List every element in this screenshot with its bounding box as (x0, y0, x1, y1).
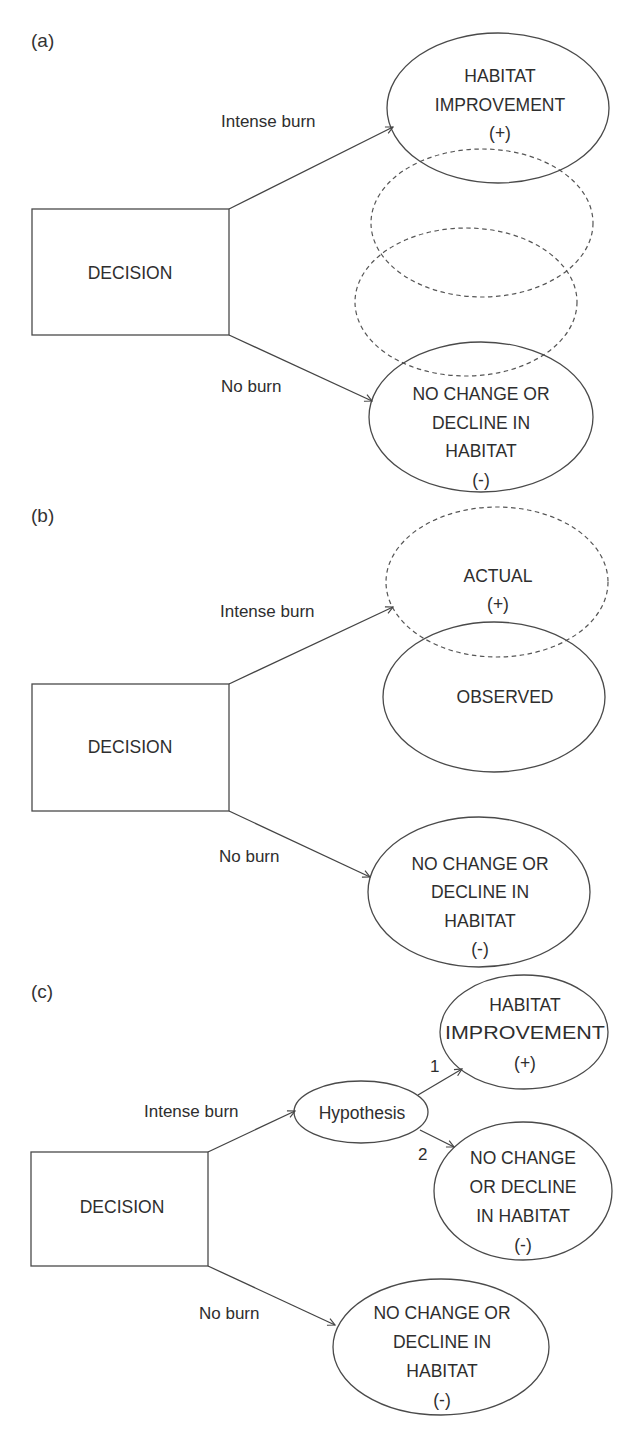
panel-b: (b) DECISION ACTUAL (+) OBSERVED NO CHAN… (31, 505, 608, 967)
outcome-text: IMPROVEMENT (435, 95, 566, 115)
hypothesis-branch-1-label: 1 (430, 1057, 439, 1076)
panel-label-a: (a) (31, 30, 54, 51)
panel-label-b: (b) (31, 505, 54, 526)
outcome-text: HABITAT (489, 995, 561, 1015)
hypothesis-label: Hypothesis (319, 1103, 406, 1123)
intense-burn-label-a: Intense burn (221, 112, 316, 131)
decision-label-b: DECISION (88, 737, 173, 757)
panel-c: (c) DECISION Hypothesis HABITAT IMPROVEM… (31, 975, 612, 1415)
uncertain-outcome-ellipse-1 (371, 149, 593, 297)
outcome-text: HABITAT (406, 1361, 478, 1381)
decision-label-a: DECISION (88, 263, 173, 283)
actual-label: ACTUAL (463, 566, 532, 586)
uncertain-outcome-ellipse-2 (355, 228, 577, 376)
observed-label: OBSERVED (457, 687, 554, 707)
no-burn-label-c: No burn (199, 1304, 259, 1323)
outcome-text: (-) (471, 939, 488, 959)
outcome-text: (-) (472, 470, 489, 490)
outcome-text: NO CHANGE OR (411, 854, 548, 874)
outcome-text: (+) (514, 1053, 536, 1073)
no-burn-arrow-b (229, 811, 370, 877)
outcome-text: NO CHANGE OR (373, 1303, 510, 1323)
intense-burn-label-b: Intense burn (220, 602, 315, 621)
outcome-text: DECLINE IN (431, 882, 529, 902)
outcome-text: NO CHANGE OR (412, 384, 549, 404)
outcome-text: OR DECLINE (470, 1177, 577, 1197)
intense-burn-arrow-a (229, 127, 393, 209)
outcome-text: NO CHANGE (470, 1148, 576, 1168)
no-burn-label-b: No burn (219, 847, 279, 866)
intense-burn-label-c: Intense burn (144, 1102, 239, 1121)
outcome-text: (-) (433, 1390, 450, 1410)
hypothesis-arrow-1 (418, 1069, 462, 1095)
outcome-text: HABITAT (464, 66, 536, 86)
outcome-text: IMPROVEMENT (445, 1023, 605, 1043)
outcome-text: DECLINE IN (393, 1332, 491, 1352)
decision-label-c: DECISION (80, 1197, 165, 1217)
outcome-text: DECLINE IN (432, 413, 530, 433)
hypothesis-branch-2-label: 2 (418, 1145, 427, 1164)
outcome-text: (-) (514, 1235, 531, 1255)
panel-label-c: (c) (31, 981, 53, 1002)
no-burn-label-a: No burn (221, 377, 281, 396)
outcome-text: IN HABITAT (476, 1206, 570, 1226)
actual-sign: (+) (487, 594, 509, 614)
outcome-text: HABITAT (445, 441, 517, 461)
outcome-text: (+) (489, 123, 511, 143)
outcome-text: HABITAT (444, 911, 516, 931)
panel-a: (a) DECISION HABITAT IMPROVEMENT (+) NO … (31, 30, 609, 492)
decision-diagram: (a) DECISION HABITAT IMPROVEMENT (+) NO … (0, 0, 631, 1433)
